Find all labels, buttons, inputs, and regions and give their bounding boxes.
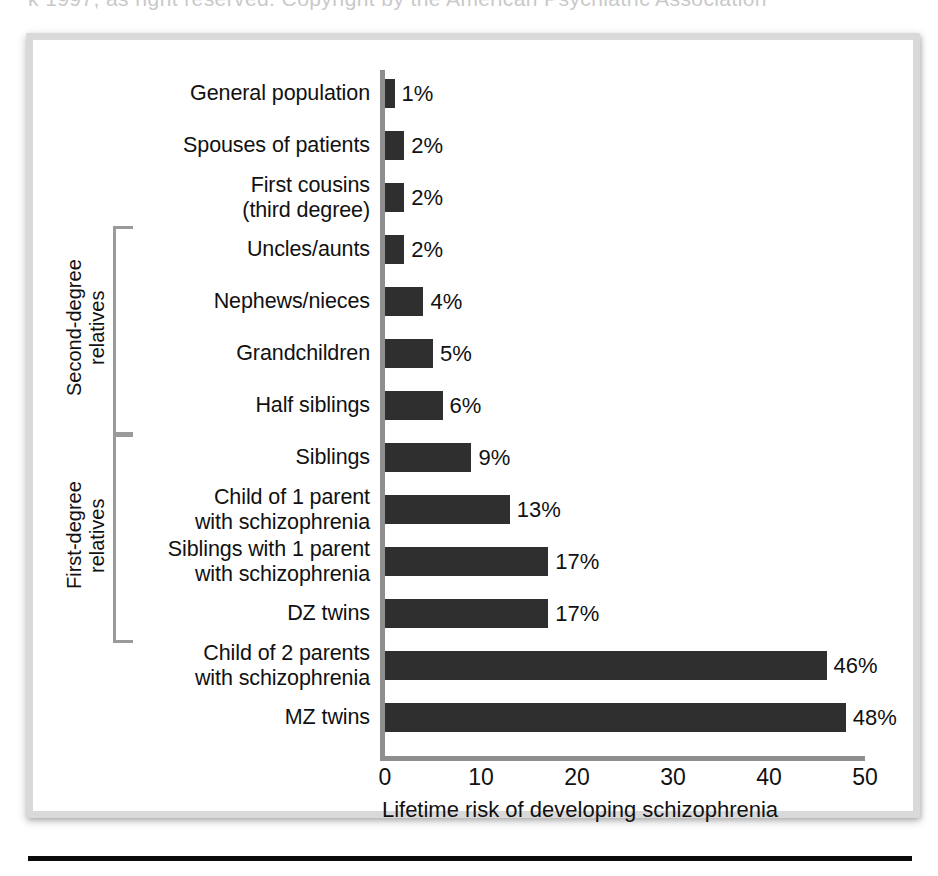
category-label-line2: (third degree) (40, 198, 370, 223)
bar (385, 131, 404, 160)
category-label-line1: Siblings (296, 445, 371, 469)
figure-frame: General populationSpouses of patientsFir… (26, 33, 920, 818)
group-label-line2: relatives (86, 226, 109, 429)
bar-value-label: 2% (411, 235, 443, 264)
group-label-line2: relatives (86, 434, 109, 637)
category-label: Child of 2 parentswith schizophrenia (40, 641, 370, 691)
category-label-line1: Child of 1 parent (214, 485, 370, 509)
bar (385, 287, 423, 316)
group-label-line1: Second-degree (63, 259, 85, 396)
x-tick-label: 50 (835, 764, 895, 791)
bar-value-label: 9% (478, 443, 510, 472)
bar-value-label: 48% (853, 703, 897, 732)
group-label-line1: First-degree (63, 482, 85, 590)
bottom-rule (28, 856, 912, 861)
category-label: MZ twins (40, 705, 370, 730)
bar-value-label: 2% (411, 131, 443, 160)
category-label-line1: General population (190, 81, 370, 105)
bar-chart-plot: General populationSpouses of patientsFir… (33, 40, 927, 825)
bar-value-label: 1% (402, 79, 434, 108)
category-label-line2: with schizophrenia (40, 666, 370, 691)
category-label-line1: Spouses of patients (183, 133, 370, 157)
page-bleed-strip: k 1997, as right reserved. Copyright by … (0, 0, 938, 26)
x-tick-label: 0 (355, 764, 415, 791)
x-tick-label: 40 (739, 764, 799, 791)
category-label-line1: Child of 2 parents (203, 641, 370, 665)
bar (385, 547, 548, 576)
category-label-line1: Nephews/nieces (214, 289, 370, 313)
bar-value-label: 46% (834, 651, 878, 680)
category-label-line1: Grandchildren (236, 341, 370, 365)
x-tick-label: 30 (643, 764, 703, 791)
category-label: Spouses of patients (40, 133, 370, 158)
category-label: General population (40, 81, 370, 106)
bar-value-label: 17% (555, 547, 599, 576)
x-axis-line (380, 756, 865, 761)
category-label-line1: DZ twins (287, 601, 370, 625)
x-tick-label: 20 (547, 764, 607, 791)
bar-value-label: 13% (517, 495, 561, 524)
bar (385, 703, 846, 732)
bar (385, 599, 548, 628)
bar (385, 495, 510, 524)
group-bracket (113, 434, 133, 643)
category-label-line1: Uncles/aunts (247, 237, 370, 261)
bar (385, 183, 404, 212)
category-label-line1: Siblings with 1 parent (168, 537, 370, 561)
bar-value-label: 6% (450, 391, 482, 420)
bar (385, 651, 827, 680)
bar-value-label: 17% (555, 599, 599, 628)
figure-inner: General populationSpouses of patientsFir… (33, 40, 913, 811)
bar-value-label: 2% (411, 183, 443, 212)
group-label: Second-degreerelatives (63, 226, 109, 429)
category-label: First cousins(third degree) (40, 173, 370, 223)
category-label-line1: MZ twins (285, 705, 370, 729)
x-axis-title: Lifetime risk of developing schizophreni… (33, 797, 927, 823)
group-label: First-degreerelatives (63, 434, 109, 637)
category-label-line1: First cousins (251, 173, 370, 197)
bar (385, 391, 443, 420)
bar (385, 339, 433, 368)
bar-value-label: 4% (430, 287, 462, 316)
bar (385, 79, 395, 108)
ghost-text: k 1997, as right reserved. Copyright by … (28, 0, 767, 11)
bar (385, 443, 471, 472)
bar (385, 235, 404, 264)
bar-value-label: 5% (440, 339, 472, 368)
category-label-line1: Half siblings (255, 393, 370, 417)
x-tick-label: 10 (451, 764, 511, 791)
group-bracket (113, 226, 133, 435)
x-axis-title-text: Lifetime risk of developing schizophreni… (382, 797, 778, 822)
